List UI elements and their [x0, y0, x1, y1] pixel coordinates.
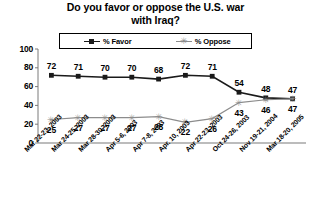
data-label-favor-5: 72: [175, 61, 195, 71]
chart-container: Do you favor or oppose the U.S. war with…: [0, 0, 311, 208]
data-label-favor-4: 68: [149, 65, 169, 75]
data-label-favor-0: 72: [41, 61, 61, 71]
data-label-favor-7: 54: [229, 78, 249, 88]
data-label-favor-3: 70: [122, 63, 142, 73]
y-axis-tick-100: 100: [11, 44, 33, 54]
y-axis-tick-80: 80: [11, 62, 33, 72]
data-label-favor-6: 71: [202, 62, 222, 72]
data-label-favor-8: 48: [256, 84, 276, 94]
y-axis-tick-40: 40: [11, 100, 33, 110]
svg-text:✳: ✳: [262, 95, 270, 105]
data-label-favor-2: 70: [95, 63, 115, 73]
svg-text:✳: ✳: [289, 94, 297, 104]
data-label-favor-1: 71: [68, 62, 88, 72]
y-axis-tick-60: 60: [11, 81, 33, 91]
y-axis-tick-20: 20: [11, 119, 33, 129]
svg-text:✳: ✳: [235, 98, 243, 108]
data-label-favor-9: 47: [283, 85, 303, 95]
